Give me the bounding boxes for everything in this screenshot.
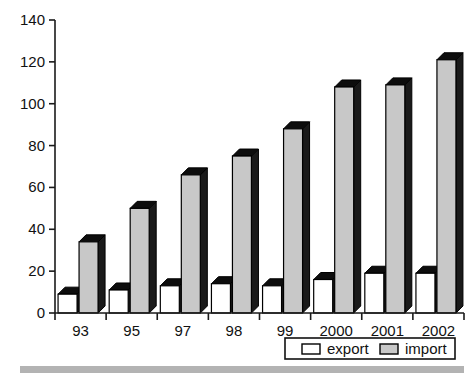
import-bar-side (251, 149, 258, 313)
legend-label-import: import (405, 340, 448, 357)
import-bar-side (354, 80, 361, 313)
import-bar (232, 156, 251, 313)
import-bar (335, 87, 354, 313)
chart-canvas: 020406080100120140 939597989920002001200… (0, 0, 472, 377)
import-bar (386, 85, 405, 313)
x-tick-label: 2002 (422, 322, 455, 339)
import-bar-side (405, 78, 412, 313)
y-tick-label: 120 (20, 53, 45, 70)
y-tick-label: 40 (28, 220, 45, 237)
footer-divider-bar (20, 366, 464, 373)
x-tick-label: 2000 (320, 322, 353, 339)
legend-swatch-export (302, 344, 320, 354)
x-tick-label: 97 (174, 322, 191, 339)
legend-label-export: export (327, 340, 370, 357)
legend-swatch-import (380, 344, 398, 354)
y-tick-label: 80 (28, 137, 45, 154)
export-bar (160, 286, 179, 313)
x-tick-label: 99 (277, 322, 294, 339)
x-tick-label: 93 (72, 322, 89, 339)
export-bar (109, 290, 128, 313)
chart-legend: exportimport (285, 338, 455, 359)
y-tick-label: 140 (20, 11, 45, 28)
x-tick-label: 98 (226, 322, 243, 339)
export-bar (416, 273, 435, 313)
import-bar-side (456, 53, 463, 313)
y-tick-label: 60 (28, 178, 45, 195)
export-bar (314, 280, 333, 313)
export-bar (58, 294, 77, 313)
y-tick-label: 0 (37, 304, 45, 321)
import-bar-side (98, 235, 105, 313)
import-bar (437, 60, 456, 313)
y-tick-label: 100 (20, 95, 45, 112)
export-bar (365, 273, 384, 313)
import-bar (284, 129, 303, 313)
export-bar (211, 284, 230, 313)
import-bar (79, 242, 98, 313)
export-bar (263, 286, 282, 313)
bar-chart: 020406080100120140 939597989920002001200… (0, 0, 472, 377)
import-bar (130, 208, 149, 313)
y-tick-label: 20 (28, 262, 45, 279)
x-tick-label: 2001 (371, 322, 404, 339)
x-tick-label: 95 (123, 322, 140, 339)
import-bar (181, 175, 200, 313)
import-bar-side (200, 168, 207, 313)
import-bar-side (303, 122, 310, 313)
import-bar-side (149, 201, 156, 313)
